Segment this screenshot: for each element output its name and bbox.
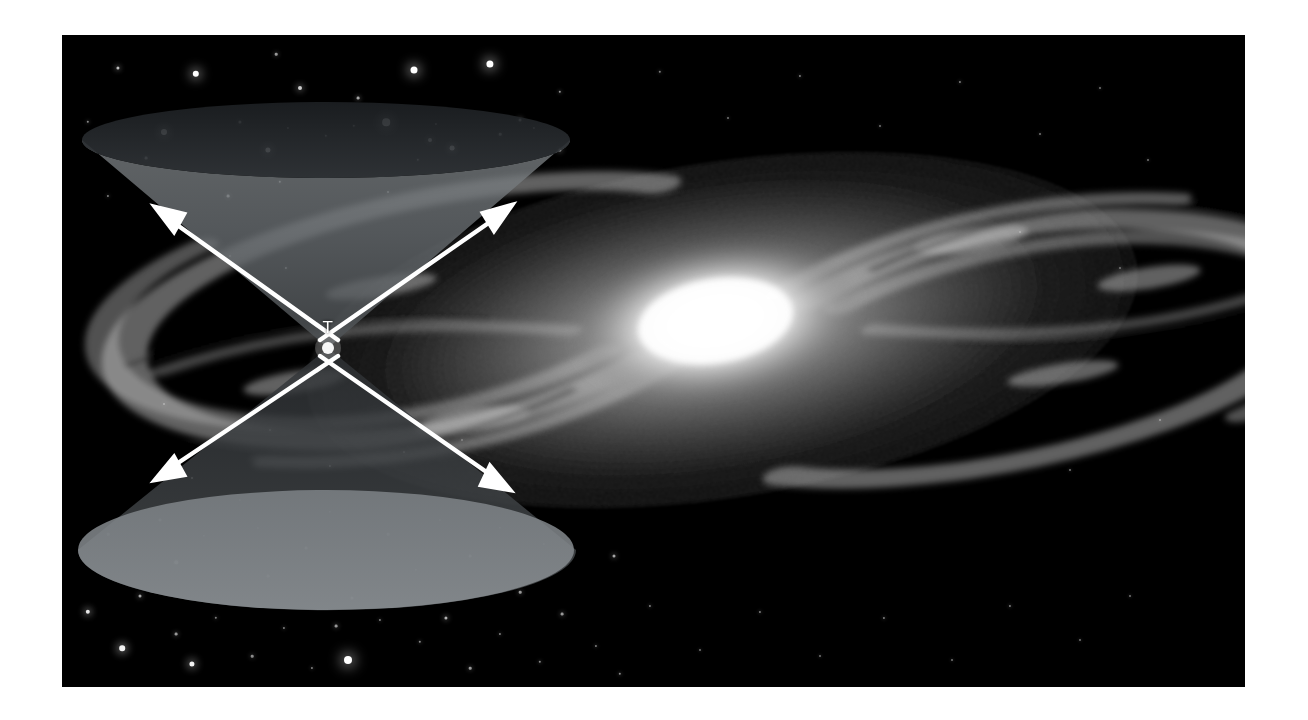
star <box>357 97 360 100</box>
star <box>238 120 241 123</box>
star <box>215 617 217 619</box>
star <box>819 655 821 657</box>
star <box>344 656 352 664</box>
past-cone-base-disc <box>78 490 574 610</box>
star <box>450 146 455 151</box>
star <box>619 673 621 675</box>
galaxy-halo <box>332 121 1091 534</box>
star <box>265 147 270 152</box>
star <box>417 159 419 161</box>
star <box>1039 133 1041 135</box>
star <box>239 499 241 501</box>
future-cone-wall <box>82 140 570 348</box>
star <box>403 451 405 453</box>
star <box>279 181 281 183</box>
star <box>439 519 441 521</box>
star <box>879 125 881 127</box>
star <box>411 67 418 74</box>
future-cone-interior <box>82 102 570 178</box>
star <box>469 667 472 670</box>
star <box>189 661 194 666</box>
star <box>559 91 561 93</box>
future-light-cone <box>82 102 570 348</box>
star <box>1119 267 1121 269</box>
star <box>469 555 472 558</box>
spiral-galaxy <box>62 35 1245 687</box>
light-cone-group <box>62 35 1245 687</box>
star <box>139 595 142 598</box>
lower-left-ray-arrow <box>155 356 338 480</box>
star <box>163 403 165 405</box>
star <box>951 659 953 661</box>
star <box>1159 419 1161 421</box>
star <box>558 148 561 151</box>
star <box>519 591 522 594</box>
event-vertex-label: T <box>323 319 334 336</box>
galaxy-svg <box>62 35 1245 687</box>
star <box>382 118 390 126</box>
star <box>727 117 729 119</box>
star <box>174 560 178 564</box>
star <box>329 511 331 513</box>
lower-right-ray-arrow <box>320 356 510 490</box>
star <box>419 641 421 643</box>
past-light-cone <box>78 348 576 610</box>
star <box>119 645 125 651</box>
star <box>499 527 501 529</box>
star-field <box>62 35 1245 687</box>
star <box>229 255 231 257</box>
star <box>285 267 287 269</box>
light-ray-arrows: T <box>62 35 1245 687</box>
star <box>116 66 119 69</box>
star <box>267 575 270 578</box>
galaxy-spiral-arms <box>87 58 1245 601</box>
star <box>649 605 651 607</box>
star <box>415 569 417 571</box>
star <box>759 611 761 613</box>
star <box>257 527 259 529</box>
star <box>107 195 109 197</box>
star <box>350 596 353 599</box>
star <box>203 535 205 537</box>
star <box>428 138 432 142</box>
star <box>329 465 331 467</box>
star <box>353 125 355 127</box>
star <box>533 127 535 129</box>
star <box>659 71 661 73</box>
star <box>595 645 597 647</box>
star <box>251 655 254 658</box>
star <box>107 533 110 536</box>
star <box>325 135 327 137</box>
galaxy-core <box>555 218 876 423</box>
star <box>561 613 564 616</box>
star <box>86 610 90 614</box>
astronomy-photo-plate: T <box>62 35 1245 687</box>
star <box>699 649 701 651</box>
star <box>543 543 545 545</box>
star <box>193 71 199 77</box>
star <box>191 477 193 479</box>
star <box>539 661 541 663</box>
galaxy-outer-halo <box>228 69 1216 591</box>
star <box>305 547 308 550</box>
event-point <box>322 342 334 354</box>
star <box>283 627 285 629</box>
star <box>159 519 162 522</box>
event-point-glow <box>315 335 341 361</box>
star <box>799 75 801 77</box>
star <box>1099 87 1101 89</box>
star <box>1009 605 1011 607</box>
star <box>499 633 501 635</box>
star <box>335 625 338 628</box>
light-cone-svg <box>62 35 1245 687</box>
star <box>486 60 493 67</box>
star <box>287 127 289 129</box>
star <box>461 439 463 441</box>
star <box>519 119 522 122</box>
galaxy-nucleus <box>632 267 799 374</box>
star <box>435 123 437 125</box>
galaxy-grain <box>281 98 1163 561</box>
past-cone-wall <box>78 348 576 610</box>
star <box>1019 231 1021 233</box>
future-cone-rim-highlight <box>82 140 570 178</box>
